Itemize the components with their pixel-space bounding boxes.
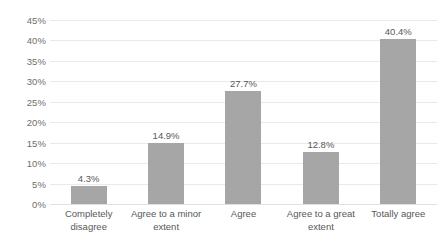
- y-axis-tick-label: 35%: [0, 55, 46, 66]
- bar[interactable]: [71, 186, 107, 204]
- y-axis-tick-label: 20%: [0, 117, 46, 128]
- bar[interactable]: [380, 39, 416, 204]
- y-axis-tick-label: 30%: [0, 76, 46, 87]
- y-axis-tick-label: 5%: [0, 178, 46, 189]
- y-axis-tick-label: 45%: [0, 15, 46, 26]
- bar-slot: 40.4%: [360, 20, 437, 204]
- y-axis-tick-label: 15%: [0, 137, 46, 148]
- bar-value-label: 14.9%: [153, 130, 180, 141]
- x-axis-category-label: Agree: [205, 208, 282, 221]
- bar-chart: 0%5%10%15%20%25%30%35%40%45% 4.3%14.9%27…: [0, 0, 445, 242]
- x-axis-category-label: Agree to a greatextent: [282, 208, 359, 233]
- bar[interactable]: [303, 152, 339, 204]
- x-axis: CompletelydisagreeAgree to a minorextent…: [50, 208, 437, 242]
- gridline-0%: [50, 204, 437, 205]
- bar-value-label: 40.4%: [385, 26, 412, 37]
- bar-value-label: 12.8%: [307, 139, 334, 150]
- y-axis-tick-label: 0%: [0, 199, 46, 210]
- y-axis-tick-label: 10%: [0, 158, 46, 169]
- y-axis: 0%5%10%15%20%25%30%35%40%45%: [0, 0, 46, 242]
- bar-slot: 12.8%: [282, 20, 359, 204]
- x-axis-category-label: Totally agree: [360, 208, 437, 221]
- bar-value-label: 27.7%: [230, 78, 257, 89]
- y-axis-tick-label: 40%: [0, 35, 46, 46]
- x-axis-category-label: Agree to a minorextent: [127, 208, 204, 233]
- bar[interactable]: [148, 143, 184, 204]
- bars-layer: 4.3%14.9%27.7%12.8%40.4%: [50, 20, 437, 204]
- x-axis-category-label: Completelydisagree: [50, 208, 127, 233]
- bar-value-label: 4.3%: [78, 173, 100, 184]
- bar-slot: 27.7%: [205, 20, 282, 204]
- bar-slot: 4.3%: [50, 20, 127, 204]
- bar-slot: 14.9%: [127, 20, 204, 204]
- bar[interactable]: [225, 91, 261, 204]
- y-axis-tick-label: 25%: [0, 96, 46, 107]
